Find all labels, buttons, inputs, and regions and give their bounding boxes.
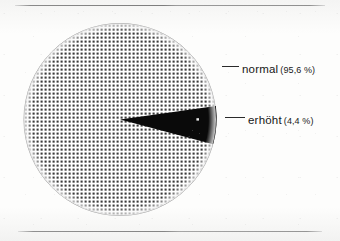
pie-label-normal: normal(95,6 %): [242, 59, 315, 77]
disc-edge-shading: [24, 24, 216, 216]
pie-label-erhoeht-text: erhöht: [248, 114, 282, 126]
figure-canvas: normal(95,6 %) erhöht(4,4 %): [0, 0, 340, 241]
pie-label-normal-percent: (95,6 %): [280, 65, 315, 75]
pie-label-erhoeht-percent: (4,4 %): [284, 116, 314, 126]
pie-label-erhoeht: erhöht(4,4 %): [248, 110, 314, 128]
leader-line-normal: [222, 66, 239, 67]
horizontal-rule-bottom: [18, 231, 322, 232]
pie-label-normal-text: normal: [242, 63, 278, 75]
leader-line-erhoeht: [225, 117, 245, 118]
